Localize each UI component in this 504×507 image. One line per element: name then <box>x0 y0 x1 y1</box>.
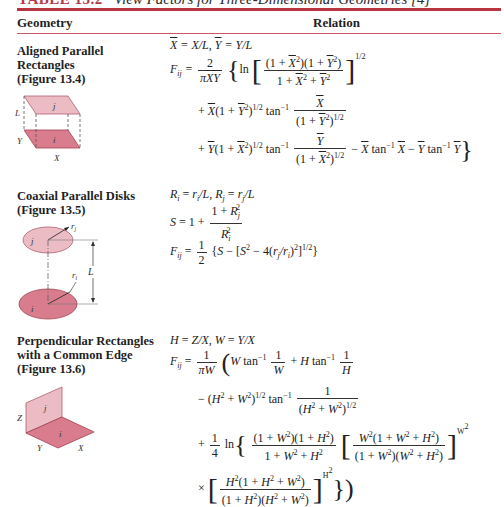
svg-text:j: j <box>43 403 47 413</box>
column-header-relation: Relation <box>313 15 360 31</box>
svg-text:X: X <box>77 443 84 453</box>
geometry-label-perpendicular-rectangles: Perpendicular Rectangles with a Common E… <box>17 334 154 376</box>
label-L: L <box>14 108 20 118</box>
aligned-rectangles-figure: j i L Y X <box>14 92 84 172</box>
svg-text:j: j <box>30 236 34 246</box>
svg-text:ri: ri <box>72 270 78 281</box>
geometry-label-aligned-rectangles: Aligned Parallel Rectangles (Figure 13.4… <box>17 44 103 86</box>
header-rule <box>17 33 501 34</box>
svg-text:L: L <box>87 266 94 277</box>
label-X: X <box>53 153 60 163</box>
relation-line1-rect: Fij = 2πXY {ln [(1 + X2)(1 + Y2)1 + X2 +… <box>170 52 366 88</box>
relation-defs-perp: H = Z/X, W = Y/X <box>170 333 255 348</box>
column-header-geometry: Geometry <box>17 15 73 31</box>
relation-line3-perp: + 14 ln{ (1 + W2)(1 + H2)1 + W2 + H2 [W2… <box>198 422 469 463</box>
coaxial-disks-figure: L rj ri j i <box>14 222 104 322</box>
svg-text:Y: Y <box>37 443 43 453</box>
label-Y: Y <box>17 136 23 146</box>
relation-line4-perp: × [H2(1 + H2 + W2)(1 + H2)(H2 + W2)]H2}) <box>198 466 354 507</box>
svg-text:rj: rj <box>71 222 77 232</box>
perpendicular-rectangles-figure: j i Z Y X <box>14 385 104 455</box>
relation-line3-rect: + Y(1 + X2)1/2 tan−1 Y(1 + X2)1/2 − X ta… <box>198 134 473 166</box>
relation-line2-perp: − (H2 + W2)1/2 tan−1 1(H2 + W2)1/2 <box>198 384 360 416</box>
label-j: j <box>52 101 56 111</box>
svg-text:Z: Z <box>17 413 23 423</box>
table-caption: TABLE 13.2 View Factors for Three-Dimens… <box>18 0 430 8</box>
top-rule <box>17 8 501 11</box>
relation-line2-rect: + X(1 + Y2)1/2 tan−1 X(1 + Y2)1/2 <box>198 96 348 128</box>
relation-defs-rect: X = X/L, Y = Y/L <box>170 38 252 53</box>
table-number: TABLE 13.2 <box>18 0 103 7</box>
table-title: View Factors for Three-Dimensional Geome… <box>114 0 430 7</box>
relation-line1-perp: Fij = 1πW (W tan−1 1W + H tan−1 1H <box>170 348 355 377</box>
geometry-label-coaxial-disks: Coaxial Parallel Disks (Figure 13.5) <box>17 189 135 217</box>
relation-line2-disks: Fij = 12 {S − [S2 − 4(rj/ri)2]1/2} <box>170 238 318 267</box>
